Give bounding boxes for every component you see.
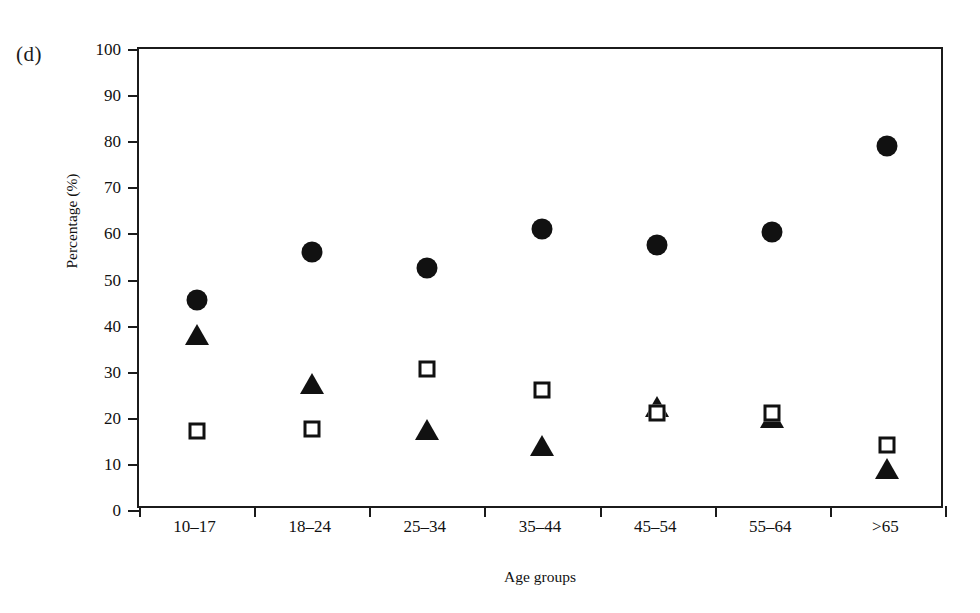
x-axis-title: Age groups — [137, 568, 943, 586]
data-point-filled-circle — [416, 257, 437, 278]
x-axis-tick — [139, 506, 141, 517]
y-axis-tick: 0 — [128, 510, 139, 512]
data-point-filled-triangle — [185, 324, 209, 345]
y-axis-title: Percentage (%) — [63, 131, 81, 311]
y-axis-tick-label: 50 — [104, 271, 121, 291]
data-point-filled-circle — [186, 290, 207, 311]
data-point-filled-triangle — [300, 372, 324, 393]
panel-label: (d) — [16, 44, 42, 65]
y-axis-tick-label: 0 — [113, 501, 122, 521]
data-point-open-square — [303, 420, 320, 437]
data-point-filled-circle — [762, 222, 783, 243]
data-point-filled-triangle — [875, 458, 899, 479]
x-axis-tick — [715, 506, 717, 517]
y-axis-tick: 60 — [128, 233, 139, 235]
figure-panel-d: (d) Percentage (%) 010203040506070809010… — [0, 0, 980, 613]
x-axis-tick — [484, 506, 486, 517]
data-point-open-square — [418, 360, 435, 377]
data-point-filled-circle — [877, 135, 898, 156]
y-axis-tick: 10 — [128, 464, 139, 466]
data-point-open-square — [188, 422, 205, 439]
y-axis-tick: 40 — [128, 326, 139, 328]
y-axis-tick: 20 — [128, 418, 139, 420]
plot-area: 0102030405060708090100 — [137, 47, 943, 508]
x-axis-tick-label: >65 — [828, 517, 943, 537]
y-axis-tick: 100 — [128, 49, 139, 51]
y-axis-tick: 70 — [128, 187, 139, 189]
x-axis-tick-label: 25–34 — [367, 517, 482, 537]
y-axis-tick-label: 70 — [104, 178, 121, 198]
y-axis-tick-label: 30 — [104, 363, 121, 383]
y-axis-tick-label: 60 — [104, 224, 121, 244]
x-axis-tick-label: 45–54 — [598, 517, 713, 537]
y-axis-tick: 80 — [128, 141, 139, 143]
y-axis-tick: 50 — [128, 280, 139, 282]
x-axis-tick-label: 18–24 — [252, 517, 367, 537]
data-point-filled-triangle — [415, 419, 439, 440]
data-point-filled-circle — [532, 218, 553, 239]
y-axis-tick-label: 10 — [104, 455, 121, 475]
y-axis-tick: 30 — [128, 372, 139, 374]
x-axis-tick — [369, 506, 371, 517]
x-axis-tick — [254, 506, 256, 517]
data-point-open-square — [879, 437, 896, 454]
x-axis-tick-label: 10–17 — [137, 517, 252, 537]
data-point-open-square — [534, 382, 551, 399]
x-axis-tick — [600, 506, 602, 517]
y-axis-tick-label: 80 — [104, 132, 121, 152]
y-axis-tick-label: 90 — [104, 86, 121, 106]
data-point-open-square — [649, 405, 666, 422]
y-axis-tick: 90 — [128, 95, 139, 97]
data-point-filled-circle — [647, 234, 668, 255]
y-axis-tick-label: 100 — [96, 40, 122, 60]
data-point-filled-circle — [301, 241, 322, 262]
x-axis-tick-label: 55–64 — [713, 517, 828, 537]
data-point-filled-triangle — [530, 435, 554, 456]
y-axis-tick-label: 20 — [104, 409, 121, 429]
y-axis-tick-label: 40 — [104, 317, 121, 337]
x-axis-tick — [830, 506, 832, 517]
data-point-open-square — [764, 405, 781, 422]
x-axis-tick — [945, 506, 947, 517]
x-axis-tick-label: 35–44 — [482, 517, 597, 537]
